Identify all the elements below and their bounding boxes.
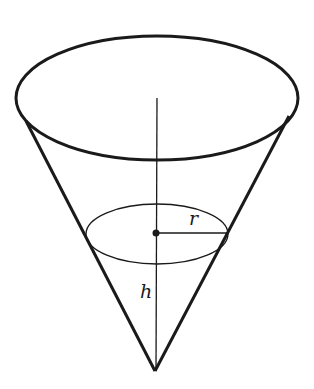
- center-point: [153, 230, 160, 237]
- height-label: h: [140, 280, 152, 302]
- cone-figure: r h: [0, 0, 314, 389]
- radius-label: r: [189, 207, 200, 229]
- cone-diagram: r h: [0, 0, 314, 389]
